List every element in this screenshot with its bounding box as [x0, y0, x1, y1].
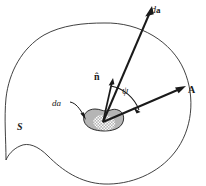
surface-boundary-curve [5, 23, 191, 184]
figure-container: da n̂ ψ A da S [0, 0, 206, 186]
n-hat-vector-arrowhead [109, 78, 115, 85]
label-vector-area-element: da [151, 5, 161, 15]
label-scalar-area-element: da [52, 99, 61, 108]
label-surface-S: S [17, 122, 23, 132]
label-angle-psi: ψ [122, 86, 128, 96]
label-vector-area-element-a: a [156, 5, 161, 15]
label-unit-normal: n̂ [94, 72, 100, 82]
vector-surface-diagram [0, 0, 206, 186]
A-vector-arrowhead [175, 86, 186, 93]
label-field-vector-A: A [188, 85, 195, 95]
